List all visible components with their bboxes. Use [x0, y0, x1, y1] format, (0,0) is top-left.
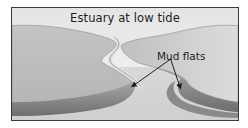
mud-flats-label: Mud flats — [157, 50, 205, 62]
diagram-title: Estuary at low tide — [12, 11, 238, 25]
diagram-frame: Estuary at low tide Mud flats — [11, 7, 239, 121]
